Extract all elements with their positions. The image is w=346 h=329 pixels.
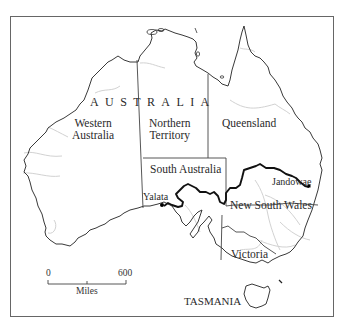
region-label-victoria: Victoria — [231, 248, 268, 260]
place-label-jandowae: Jandowae — [272, 176, 311, 188]
northern-islands — [147, 28, 224, 78]
mainland-coastline — [24, 26, 322, 263]
scale-end-label: 600 — [118, 268, 132, 278]
border-wa — [137, 60, 143, 208]
region-label-northern-territory: Northern Territory — [149, 117, 191, 141]
yalata-marker — [160, 203, 164, 207]
border-nsw-vic-west — [221, 215, 222, 260]
country-label: AUSTRALIA — [90, 96, 216, 108]
region-label-tasmania: TASMANIA — [184, 295, 241, 307]
region-label-western-australia: Western Australia — [72, 117, 114, 141]
tasmania-outline — [244, 284, 270, 308]
state-borders — [137, 60, 318, 260]
region-label-queensland: Queensland — [222, 117, 276, 129]
scale-bar — [48, 280, 126, 284]
place-label-yalata: Yalata — [143, 191, 168, 203]
region-label-new-south-wales: New South Wales — [230, 199, 312, 211]
scale-start-label: 0 — [46, 268, 51, 278]
scale-unit-label: Miles — [76, 286, 98, 296]
island — [279, 280, 282, 283]
rivers — [23, 48, 310, 250]
region-label-south-australia: South Australia — [150, 163, 221, 175]
